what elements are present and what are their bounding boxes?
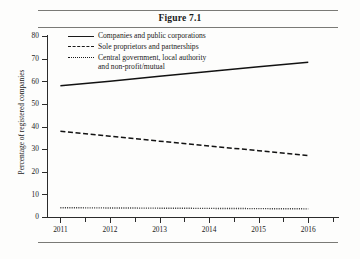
series-path-2: [60, 208, 308, 209]
series-path-0: [60, 62, 308, 86]
series-layer: [0, 0, 360, 259]
figure-page: Figure 7.1 Percentage of registered comp…: [0, 0, 360, 259]
series-path-1: [60, 131, 308, 155]
